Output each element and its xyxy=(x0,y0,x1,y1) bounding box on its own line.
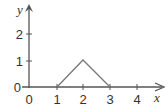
x-tick-label-4: 4 xyxy=(133,92,140,107)
x-tick-label-0: 0 xyxy=(25,92,32,107)
x-tick-label-2: 2 xyxy=(79,92,86,107)
y-tick-label-0: 0 xyxy=(14,80,21,95)
series-line xyxy=(57,60,110,87)
y-tick-label-2: 2 xyxy=(16,27,23,42)
x-axis-label: x xyxy=(153,90,160,105)
y-axis-label: y xyxy=(15,2,23,17)
y-tick-label-1: 1 xyxy=(16,54,23,69)
x-tick-label-1: 1 xyxy=(53,92,60,107)
x-tick-label-3: 3 xyxy=(106,92,113,107)
chart: 0 1 2 3 4 0 1 2 x y xyxy=(0,0,168,112)
